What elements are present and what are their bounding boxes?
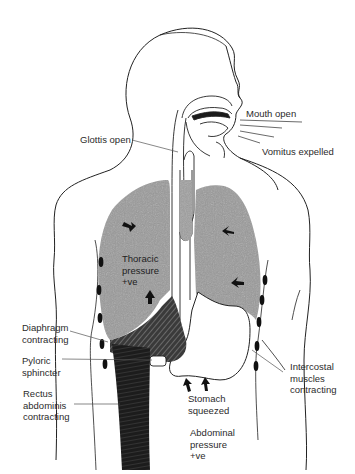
vomitus-spray-lines	[238, 120, 302, 143]
label-mouth-open: Mouth open	[246, 108, 296, 120]
arrow-icon	[201, 377, 210, 391]
label-stomach-squeezed: Stomach squeezed	[188, 393, 229, 416]
oral-nasal-cavity	[182, 96, 232, 158]
label-pyloric-sphincter: Pyloric sphincter	[22, 355, 61, 378]
rectus-abdominis-muscle	[112, 344, 150, 470]
arrow-icon	[183, 378, 192, 392]
label-glottis-open: Glottis open	[80, 134, 131, 146]
pyloric-sphincter	[150, 356, 166, 366]
trachea	[180, 180, 192, 241]
label-diaphragm-contracting: Diaphragm contracting	[22, 322, 68, 345]
label-vomitus-expelled: Vomitus expelled	[262, 146, 334, 158]
label-rectus-abdominis: Rectus abdominis contracting	[23, 388, 69, 423]
torso-outline	[54, 118, 311, 470]
label-thoracic-pressure: Thoracic pressure +ve	[122, 253, 159, 288]
label-intercostal-muscles: Intercostal muscles contracting	[290, 361, 336, 396]
label-abdominal-pressure: Abdominal pressure +ve	[190, 427, 235, 462]
